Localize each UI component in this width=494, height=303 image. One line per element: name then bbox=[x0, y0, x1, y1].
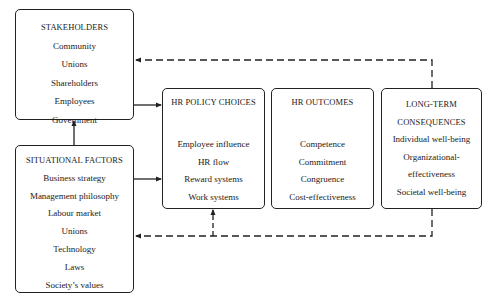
hr-policy-item: Work systems bbox=[188, 189, 239, 207]
hr-outcomes-box: HR OUTCOMES Competence Commitment Congru… bbox=[271, 88, 374, 209]
stakeholders-box: STAKEHOLDERS Community Unions Shareholde… bbox=[15, 9, 134, 120]
stakeholder-item: Unions bbox=[61, 55, 87, 74]
feedback-consequences-to-situational bbox=[136, 209, 432, 236]
situational-factor-item: Technology bbox=[53, 241, 95, 259]
hr-outcome-item: Commitment bbox=[299, 154, 347, 172]
long-term-consequences-title-line1: LONG-TERM bbox=[406, 96, 457, 114]
situational-factor-item: Unions bbox=[61, 223, 87, 241]
hr-policy-item: HR flow bbox=[198, 154, 229, 172]
hr-policy-item: Employee influence bbox=[177, 136, 249, 154]
long-term-consequences-box: LONG-TERM CONSEQUENCES Individual well-b… bbox=[381, 88, 482, 209]
situational-factor-item: Society’s values bbox=[45, 277, 103, 295]
hr-policy-item: Reward systems bbox=[184, 171, 243, 189]
situational-factors-title: SITUATIONAL FACTORS bbox=[26, 152, 123, 170]
stakeholder-item: Government bbox=[52, 111, 97, 130]
situational-factor-item: Labour market bbox=[48, 205, 101, 223]
long-term-consequences-title-line2: CONSEQUENCES bbox=[397, 114, 465, 132]
consequence-item: Individual well-being bbox=[393, 131, 471, 149]
situational-factors-box: SITUATIONAL FACTORS Business strategy Ma… bbox=[15, 145, 134, 293]
stakeholders-title: STAKEHOLDERS bbox=[41, 18, 108, 37]
feedback-consequences-to-stakeholders bbox=[136, 60, 432, 88]
situational-factor-item: Laws bbox=[65, 259, 85, 277]
hr-policy-choices-title: HR POLICY CHOICES bbox=[163, 98, 264, 107]
hr-outcome-item: Competence bbox=[300, 136, 345, 154]
hr-policy-choices-box: HR POLICY CHOICES Employee influence HR … bbox=[162, 88, 265, 209]
situational-factor-item: Business strategy bbox=[43, 170, 106, 188]
hr-outcomes-title: HR OUTCOMES bbox=[272, 98, 373, 107]
stakeholder-item: Employees bbox=[55, 92, 95, 111]
consequence-item: Societal well-being bbox=[397, 184, 467, 202]
hr-outcome-item: Cost-effectiveness bbox=[289, 189, 355, 207]
consequence-item: Organizational- bbox=[403, 149, 459, 167]
consequence-item: effectiveness bbox=[408, 166, 455, 184]
stakeholder-item: Community bbox=[53, 37, 96, 56]
stakeholder-item: Shareholders bbox=[51, 74, 98, 93]
situational-factor-item: Management philosophy bbox=[30, 188, 119, 206]
hr-outcome-item: Congruence bbox=[301, 171, 344, 189]
